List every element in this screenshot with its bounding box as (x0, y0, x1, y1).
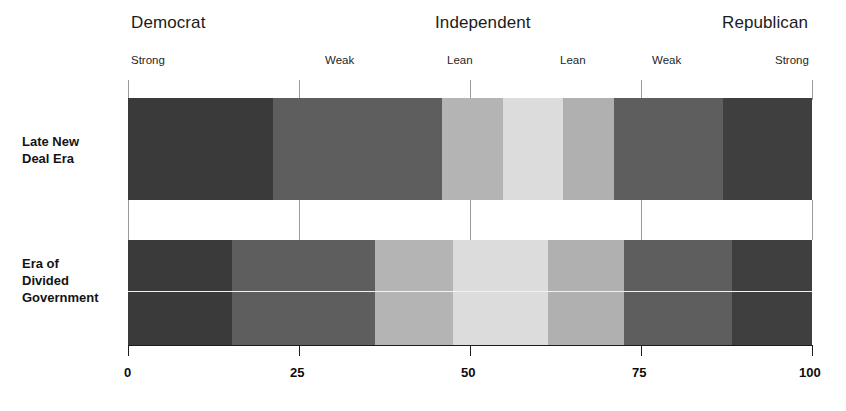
bar-segment-weak-republican (614, 98, 723, 200)
gridline-mid-0 (128, 200, 129, 240)
x-axis-tick-0 (128, 346, 129, 356)
x-axis-tick-75 (641, 346, 642, 356)
gridline-50 (470, 80, 471, 100)
gridline-0 (128, 80, 129, 100)
row-label-late-new-deal-era: Late New Deal Era (22, 133, 122, 167)
bar-segment-strong-democrat (128, 240, 232, 345)
bar-segment-independent (503, 98, 563, 200)
bar-segment-weak-democrat (273, 98, 442, 200)
group-heading-independent: Independent (435, 14, 531, 31)
group-heading-democrat: Democrat (131, 14, 206, 31)
gridline-75 (641, 80, 642, 100)
bar-segment-lean-republican (548, 240, 624, 345)
gridline-mid-50 (470, 200, 471, 240)
gridline-mid-75 (641, 200, 642, 240)
sub-heading-weak-democrat: Weak (325, 55, 354, 67)
gridline-100 (812, 80, 813, 100)
x-axis-tick-50 (470, 346, 471, 356)
x-axis-label-75: 75 (632, 366, 646, 379)
x-axis-label-25: 25 (290, 366, 304, 379)
sub-heading-strong-republican: Strong (775, 55, 809, 67)
bar-segment-lean-democrat (442, 98, 503, 200)
bar-segment-strong-republican (732, 240, 812, 345)
sub-heading-strong-democrat: Strong (131, 55, 165, 67)
bar-segment-strong-republican (723, 98, 812, 200)
x-axis-label-0: 0 (124, 366, 131, 379)
x-axis-label-100: 100 (799, 366, 821, 379)
bar-segment-independent (453, 240, 548, 345)
bar-segment-weak-democrat (232, 240, 375, 345)
sub-heading-lean-democrat: Lean (447, 55, 473, 67)
bar-row-era-of-divided-government (128, 240, 812, 345)
bar-segment-lean-republican (563, 98, 614, 200)
party-identification-stacked-bar-chart: Democrat Independent Republican Strong W… (0, 0, 846, 411)
row-label-era-of-divided-government: Era of Divided Government (22, 255, 127, 306)
gridline-25 (299, 80, 300, 100)
gridline-mid-25 (299, 200, 300, 240)
sub-heading-weak-republican: Weak (652, 55, 681, 67)
x-axis-tick-25 (299, 346, 300, 356)
group-heading-republican: Republican (722, 14, 808, 31)
bar-row-late-new-deal-era (128, 98, 812, 200)
gridline-mid-100 (812, 200, 813, 240)
x-axis-tick-100 (812, 346, 813, 356)
bar-segment-strong-democrat (128, 98, 273, 200)
sub-heading-lean-republican: Lean (560, 55, 586, 67)
bar-segment-lean-democrat (375, 240, 453, 345)
x-axis-label-50: 50 (461, 366, 475, 379)
bar-segment-weak-republican (624, 240, 732, 345)
